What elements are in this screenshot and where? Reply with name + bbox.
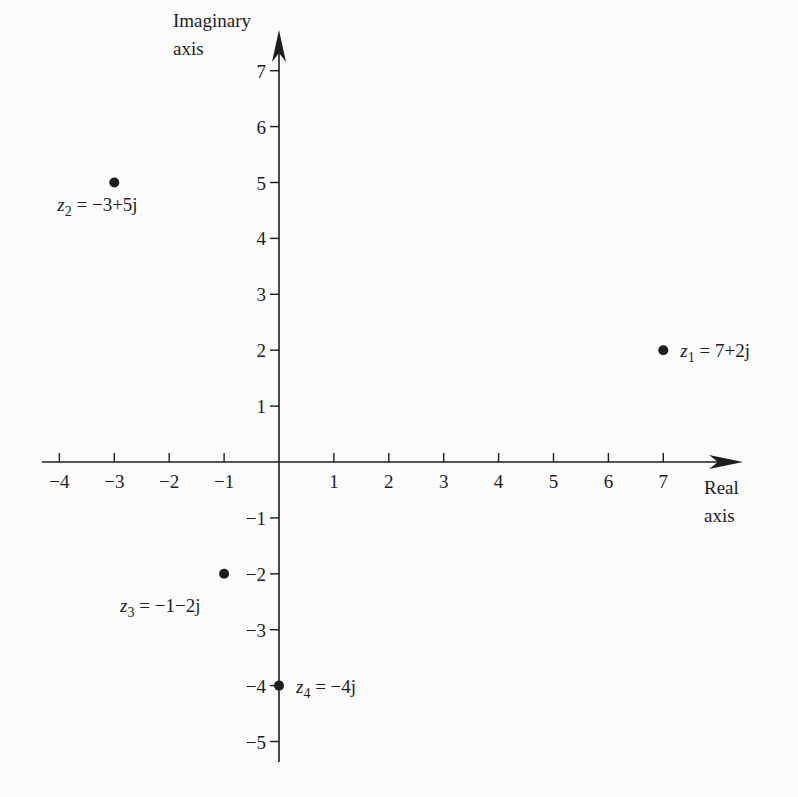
x-tick-label: 3 [439,471,449,492]
y-tick-label: −5 [246,732,266,753]
point-label: z3 = −1−2j [119,595,200,620]
y-tick-label: −1 [246,508,266,529]
point-marker-icon [658,345,668,355]
point-label: z2 = −3+5j [56,194,137,219]
y-tick-label: 2 [257,340,267,361]
point-z2: z2 = −3+5j [56,178,137,219]
x-tick-label: 4 [494,471,504,492]
x-tick-label: 7 [659,471,669,492]
y-tick-label: −3 [246,620,266,641]
real-axis-ticks: −4−3−2−11234567 [49,453,668,492]
y-tick-label: 6 [257,117,267,138]
x-tick-label: −3 [104,471,124,492]
x-tick-label: 5 [549,471,559,492]
x-tick-label: 1 [329,471,339,492]
point-label: z1 = 7+2j [679,340,750,365]
real-axis [42,455,743,469]
x-tick-label: −1 [214,471,234,492]
y-tick-label: 5 [257,173,267,194]
imaginary-axis-title-line2: axis [173,38,204,59]
point-marker-icon [219,569,229,579]
complex-plane-diagram: −4−3−2−11234567 7654321−1−2−3−4−5 Imagin… [0,0,798,797]
point-marker-icon [274,681,284,691]
x-tick-label: 2 [384,471,394,492]
point-z4: z4 = −4j [274,676,356,701]
y-tick-label: 1 [257,396,267,417]
real-axis-title-line1: Real [704,477,739,498]
point-label: z4 = −4j [295,676,356,701]
data-points: z1 = 7+2jz2 = −3+5jz3 = −1−2jz4 = −4j [56,178,750,701]
y-tick-label: −2 [246,564,266,585]
y-tick-label: 3 [257,284,267,305]
y-tick-label: 4 [257,228,267,249]
real-axis-title-line2: axis [704,505,735,526]
point-z1: z1 = 7+2j [658,340,750,365]
point-marker-icon [109,178,119,188]
y-tick-label: −4 [246,676,267,697]
point-z3: z3 = −1−2j [119,569,229,620]
imaginary-axis [272,30,286,762]
imaginary-axis-ticks: 7654321−1−2−3−4−5 [246,61,279,753]
x-tick-label: −4 [49,471,70,492]
y-tick-label: 7 [257,61,267,82]
x-tick-label: −2 [159,471,179,492]
imaginary-axis-title-line1: Imaginary [173,10,252,31]
x-tick-label: 6 [604,471,614,492]
